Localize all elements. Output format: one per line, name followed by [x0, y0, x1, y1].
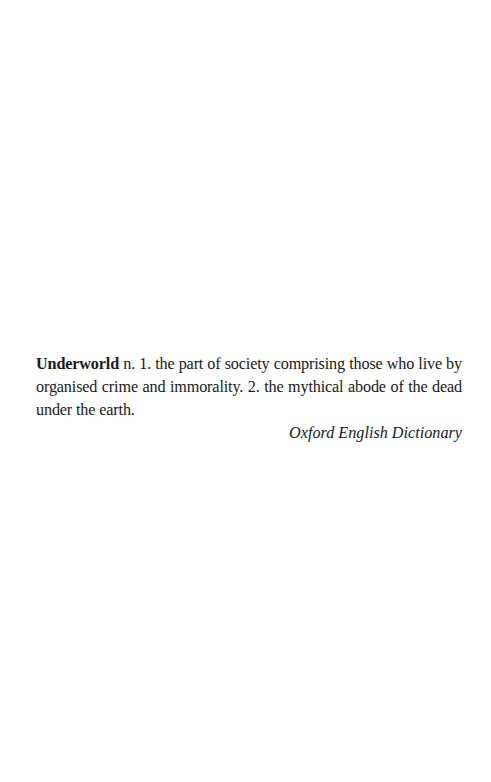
epigraph: Underworld n. 1. the part of society com…	[36, 353, 462, 445]
citation-source: Oxford English Dictionary	[36, 422, 462, 445]
definition-paragraph: Underworld n. 1. the part of society com…	[36, 353, 462, 422]
defined-term: Underworld	[36, 355, 119, 373]
